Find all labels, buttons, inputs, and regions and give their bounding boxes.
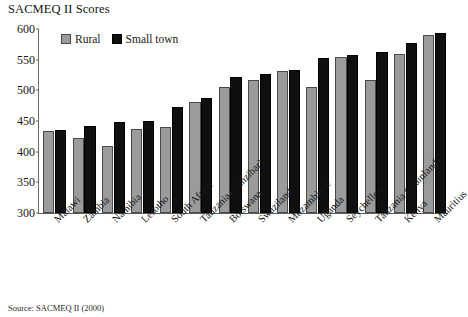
bar-group bbox=[277, 29, 300, 213]
bar-group bbox=[73, 29, 96, 213]
bar-small-town bbox=[347, 55, 358, 213]
bar-group bbox=[160, 29, 183, 213]
bar-small-town bbox=[435, 33, 446, 213]
bar-small-town bbox=[55, 130, 66, 213]
source-note: Source: SACMEQ II (2000) bbox=[8, 303, 104, 313]
bar-small-town bbox=[84, 126, 95, 213]
legend-item-rural: Rural bbox=[61, 33, 101, 45]
bar-small-town bbox=[172, 107, 183, 213]
legend-item-small-town: Small town bbox=[112, 33, 179, 45]
chart-legend: Rural Small town bbox=[61, 33, 178, 45]
chart-title: SACMEQ II Scores bbox=[8, 2, 110, 17]
bar-rural bbox=[335, 57, 346, 213]
bar-small-town bbox=[143, 121, 154, 213]
bar-rural bbox=[423, 35, 434, 213]
bar-group bbox=[43, 29, 66, 213]
bar-group bbox=[131, 29, 154, 213]
bar-group bbox=[248, 29, 271, 213]
bar-small-town bbox=[114, 122, 125, 213]
legend-label-rural: Rural bbox=[75, 33, 101, 45]
bar-group bbox=[335, 29, 358, 213]
bar-rural bbox=[43, 131, 54, 213]
bar-group bbox=[102, 29, 125, 213]
legend-swatch-small-town-icon bbox=[112, 34, 122, 44]
bar-group bbox=[423, 29, 446, 213]
legend-swatch-rural-icon bbox=[61, 34, 71, 44]
legend-label-small-town: Small town bbox=[126, 33, 179, 45]
